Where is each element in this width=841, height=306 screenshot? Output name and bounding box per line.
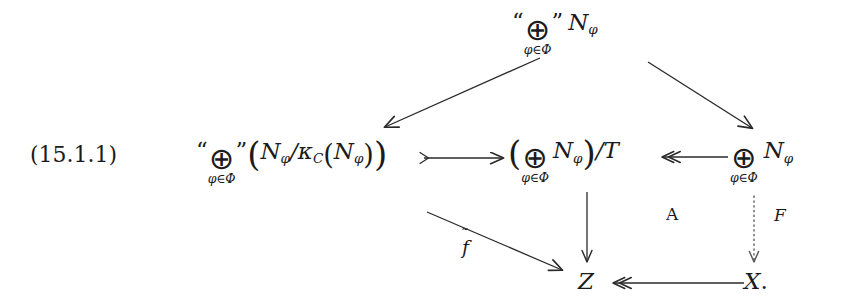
diagram-edges: middle node : monomorphism (hooked/bar t… [0,0,841,306]
right-paren-glyph: ) [583,133,596,173]
object-X-label: X [744,268,760,294]
object-N-subscript: φ [573,150,582,166]
equation-number: (15.1.1) [30,142,117,167]
edge-label-f-tilde: ˜f [462,236,469,258]
quotient-subgroup-T: T [604,137,619,163]
right-paren-glyph: ) [374,134,387,174]
trailing-period: . [760,268,767,294]
bigoplus-icon: ⊕φ∈Φ [208,146,236,186]
close-quote-glyph: ” [235,137,247,163]
node-object-Z: Z [578,270,594,293]
bigoplus-limits: φ∈Φ [521,171,549,184]
node-top-direct-sum: “⊕φ∈Φ”Nφ [512,10,598,56]
node-object-X: X. [744,270,768,293]
tilde-accent: ˜ [461,226,469,244]
numerator-N: N [260,138,280,164]
quotient-slash: / [290,138,298,164]
edge-left-to-middle-mono [420,153,503,164]
left-paren-glyph: ( [508,133,521,173]
edge-label-functor-F: F [774,205,786,225]
bigoplus-limits: φ∈Φ [208,172,236,185]
diagram-canvas: middle node : monomorphism (hooked/bar t… [0,0,841,306]
edge-label-region-A: A [666,204,678,224]
bigoplus-limits: φ∈Φ [730,171,758,184]
object-N: N [764,137,784,163]
bigoplus-icon: ⊕φ∈Φ [524,17,552,57]
object-N-subscript: φ [588,21,597,37]
open-quote-glyph: “ [512,8,524,34]
object-N: N [568,9,588,35]
left-paren-glyph: ( [247,134,260,174]
kappa-symbol: κ [298,138,313,164]
edge-top-to-left [385,58,540,127]
node-left-direct-sum-quotient: “⊕φ∈Φ”(Nφ/κC(Nφ)) [196,139,387,185]
inner-object-N-subscript: φ [354,150,363,166]
inner-object-N: N [334,138,354,164]
kappa-subscript-C: C [313,150,323,166]
quotient-slash: / [596,137,604,163]
object-N-subscript: φ [784,150,793,166]
bigoplus-icon: ⊕φ∈Φ [521,145,549,185]
object-Z-label: Z [578,268,594,294]
node-middle-direct-sum-mod-T: (⊕φ∈ΦNφ)/T [508,139,619,185]
object-N: N [553,137,573,163]
bigoplus-icon: ⊕φ∈Φ [730,145,758,185]
numerator-N-subscript: φ [281,150,290,166]
inner-right-paren-glyph: ) [363,139,374,170]
close-quote-glyph: ” [551,8,563,34]
edge-top-to-right [648,62,752,128]
node-right-direct-sum: ⊕φ∈ΦNφ [730,139,793,185]
open-quote-glyph: “ [196,137,208,163]
inner-left-paren-glyph: ( [323,139,334,170]
bigoplus-limits: φ∈Φ [524,43,552,56]
edge-left-to-Z [427,212,562,270]
